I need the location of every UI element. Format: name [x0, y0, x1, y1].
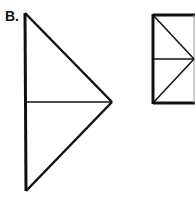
triangle-upper-side	[25, 13, 112, 102]
rectangle-figure	[153, 14, 195, 104]
triangle-figure	[25, 13, 112, 191]
rect-lower-diagonal	[153, 59, 194, 103]
diagram-canvas	[0, 0, 195, 202]
rect-upper-diagonal	[153, 15, 194, 59]
triangle-lower-side	[26, 102, 112, 191]
